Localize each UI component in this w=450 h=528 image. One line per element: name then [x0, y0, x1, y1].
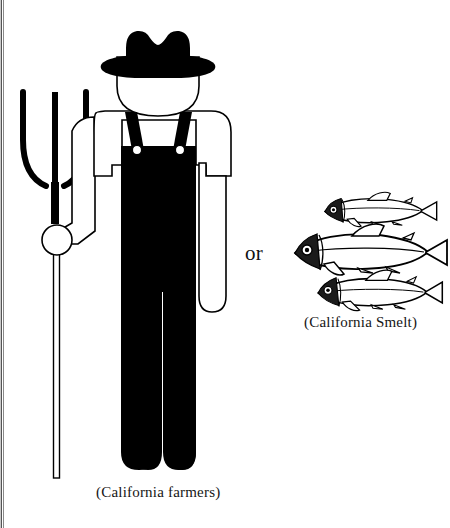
california-smelt-group: [295, 192, 447, 310]
overalls-button-left: [132, 145, 141, 154]
smelt-top: [325, 192, 437, 226]
overalls-button-right: [175, 145, 184, 154]
farmer-right-arm: [199, 163, 226, 312]
figure-canvas: or (California Smelt) (California farmer…: [0, 0, 450, 528]
smelt-middle: [295, 224, 447, 275]
farmer-hand: [42, 225, 72, 255]
farmer-caption: (California farmers): [96, 484, 220, 501]
farmer-left-arm: [60, 117, 95, 244]
cowboy-hat-icon: [101, 31, 216, 78]
smelt-bottom: [318, 270, 442, 310]
overalls-leg-left: [121, 290, 157, 470]
overalls-leg-right: [163, 290, 196, 470]
california-farmer-figure: [23, 31, 231, 478]
illustration-layer: [0, 0, 450, 528]
or-conjunction-label: or: [245, 241, 263, 266]
smelt-caption: (California Smelt): [304, 314, 417, 331]
